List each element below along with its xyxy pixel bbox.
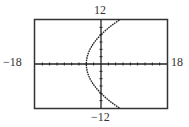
- plot-area: [0, 0, 189, 127]
- axes: [35, 20, 167, 108]
